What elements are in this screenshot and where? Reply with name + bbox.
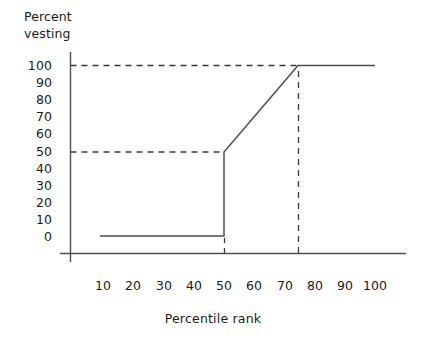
- x-axis-title: Percentile rank: [0, 311, 426, 326]
- vesting-schedule-chart: Percent vesting 100 90 80 70 60 50 40 30…: [0, 0, 426, 338]
- vesting-data-line: [100, 66, 375, 237]
- plot-area: [0, 0, 426, 338]
